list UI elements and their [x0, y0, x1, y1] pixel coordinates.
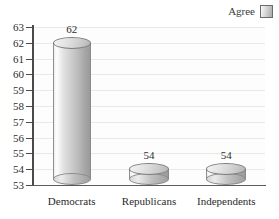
category-label: Democrats: [28, 196, 116, 207]
y-axis-tick-label: 60: [0, 69, 24, 80]
bar-cylinder: [129, 163, 169, 185]
chart-legend: Agree: [228, 3, 273, 19]
y-axis-tick-label: 63: [0, 22, 24, 33]
y-axis-tick-label: 56: [0, 133, 24, 144]
y-axis-tick: [26, 74, 33, 75]
y-axis-tick: [26, 185, 33, 186]
y-axis-tick-label: 61: [0, 54, 24, 65]
legend-label-agree: Agree: [228, 6, 255, 17]
bar-chart: Agree 6362616059585756555453 625454 Demo…: [0, 0, 279, 219]
y-axis-tick-label: 58: [0, 101, 24, 112]
y-axis-tick: [26, 138, 33, 139]
y-axis-tick: [26, 106, 33, 107]
x-axis-line: [32, 185, 266, 186]
y-axis-tick-label: 54: [0, 164, 24, 175]
bar-cylinder: [206, 163, 246, 185]
legend-swatch-icon: [260, 5, 273, 18]
y-axis-tick: [26, 122, 33, 123]
y-axis-tick: [26, 27, 33, 28]
y-axis-tick-label: 57: [0, 117, 24, 128]
cylinder-top-ellipse: [53, 37, 91, 49]
y-axis-tick-label: 55: [0, 148, 24, 159]
bar-value-label: 62: [52, 24, 92, 35]
category-label: Republicans: [105, 196, 193, 207]
y-axis-tick-label: 53: [0, 180, 24, 191]
y-axis-tick: [26, 153, 33, 154]
y-axis-tick: [26, 59, 33, 60]
bar-value-label: 54: [206, 150, 246, 161]
y-axis-tick: [26, 169, 33, 170]
y-axis-tick: [26, 43, 33, 44]
y-axis-tick-label: 62: [0, 38, 24, 49]
bar-value-label: 54: [129, 150, 169, 161]
y-axis-tick: [26, 90, 33, 91]
y-axis-tick-label: 59: [0, 85, 24, 96]
bar-cylinder: [53, 37, 91, 185]
cylinder-bottom-ellipse: [53, 173, 91, 185]
cylinder-body: [53, 43, 91, 179]
category-label: Independents: [182, 196, 270, 207]
